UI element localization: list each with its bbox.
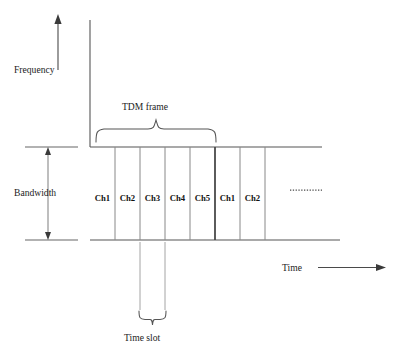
bandwidth-arrow-head-down-icon — [45, 232, 51, 240]
bandwidth-arrow-head-up-icon — [45, 147, 51, 155]
bandwidth-annotation: Bandwidth — [14, 147, 78, 240]
tdm-diagram: Frequency TDM frame Bandwidth — [0, 0, 396, 353]
time-slot-annotation: Time slot — [124, 242, 166, 343]
time-arrow-head-icon — [376, 264, 386, 271]
frequency-arrow-head-icon — [54, 14, 61, 24]
time-slot-label: Time slot — [124, 332, 161, 343]
frequency-axis-group: Frequency — [14, 14, 62, 75]
tdm-frame-label: TDM frame — [122, 101, 168, 112]
channel-label-4: Ch5 — [195, 193, 211, 203]
channel-label-0: Ch1 — [95, 193, 110, 203]
channel-labels: Ch1 Ch2 Ch3 Ch4 Ch5 Ch1 Ch2 — [95, 193, 260, 203]
tdm-frame-annotation: TDM frame — [96, 101, 216, 142]
time-axis-group: Time — [282, 262, 386, 273]
channel-label-1: Ch2 — [120, 193, 135, 203]
channel-label-2: Ch3 — [145, 193, 161, 203]
time-axis-label: Time — [282, 262, 302, 273]
frequency-axis-label: Frequency — [14, 64, 55, 75]
channel-dividers — [115, 147, 265, 240]
channel-label-5: Ch1 — [220, 193, 235, 203]
tdm-frame-brace — [96, 120, 216, 142]
channel-label-3: Ch4 — [170, 193, 186, 203]
channel-label-6: Ch2 — [245, 193, 260, 203]
bandwidth-label: Bandwidth — [14, 187, 56, 198]
time-slot-brace — [139, 311, 166, 325]
tdm-diagram-canvas: Frequency TDM frame Bandwidth — [0, 0, 396, 353]
